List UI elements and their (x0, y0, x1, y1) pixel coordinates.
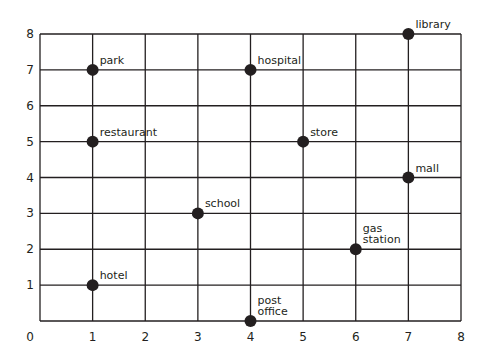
x-tick-label: 6 (352, 330, 360, 344)
point-label: hospital (258, 54, 302, 67)
y-tick-label: 2 (26, 242, 34, 256)
point-label: mall (415, 162, 439, 175)
data-points: parkhospitallibraryrestaurantstoremallsc… (87, 18, 452, 327)
point-label: restaurant (100, 126, 158, 139)
point-label: library (415, 18, 451, 31)
point-school: school (192, 197, 240, 219)
x-tick-label: 3 (194, 330, 202, 344)
y-tick-label: 7 (26, 63, 34, 77)
y-tick-label: 1 (26, 278, 34, 292)
point-marker-icon (297, 136, 309, 148)
point-label: station (363, 233, 401, 246)
point-marker-icon (87, 64, 99, 76)
point-marker-icon (245, 64, 257, 76)
x-tick-label: 8 (457, 330, 465, 344)
point-marker-icon (245, 315, 257, 327)
y-tick-label: 6 (26, 99, 34, 113)
point-gas-station: gasstation (350, 222, 401, 255)
point-label: park (100, 54, 125, 67)
point-library: library (402, 18, 451, 40)
point-label: school (205, 197, 240, 210)
x-tick-label: 1 (89, 330, 97, 344)
y-tick-label: 5 (26, 135, 34, 149)
point-marker-icon (402, 28, 414, 40)
x-tick-label: 7 (405, 330, 413, 344)
coordinate-grid-chart: 01234567812345678 parkhospitallibraryres… (0, 0, 483, 358)
point-marker-icon (192, 207, 204, 219)
point-label: hotel (100, 269, 128, 282)
point-marker-icon (402, 172, 414, 184)
point-marker-icon (350, 243, 362, 255)
x-tick-label: 4 (247, 330, 255, 344)
point-marker-icon (87, 279, 99, 291)
point-label: store (310, 126, 338, 139)
x-tick-label: 5 (299, 330, 307, 344)
x-tick-label: 0 (26, 330, 34, 344)
y-tick-label: 4 (26, 171, 34, 185)
point-hospital: hospital (245, 54, 302, 76)
point-restaurant: restaurant (87, 126, 158, 148)
point-marker-icon (87, 136, 99, 148)
y-tick-label: 3 (26, 206, 34, 220)
x-tick-label: 2 (141, 330, 149, 344)
y-tick-label: 8 (26, 27, 34, 41)
point-label: office (258, 305, 288, 318)
